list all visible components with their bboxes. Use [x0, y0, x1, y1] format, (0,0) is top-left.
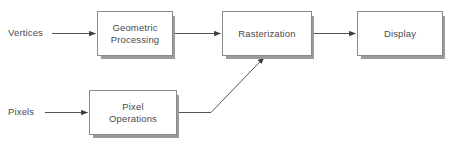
- node-display[interactable]: Display: [357, 11, 443, 56]
- node-label-pixel-operations: Pixel Operations: [109, 101, 157, 125]
- node-geometric-processing[interactable]: Geometric Processing: [97, 11, 173, 56]
- input-label-pixels: Pixels: [8, 106, 34, 118]
- input-label-vertices: Vertices: [8, 27, 43, 39]
- node-label-rasterization: Rasterization: [238, 28, 295, 40]
- node-label-geometric-processing: Geometric Processing: [111, 22, 160, 46]
- edge-pixeloperations-to-rasterization: [178, 58, 264, 113]
- node-label-display: Display: [384, 28, 416, 40]
- node-rasterization[interactable]: Rasterization: [222, 11, 312, 56]
- node-pixel-operations[interactable]: Pixel Operations: [89, 90, 177, 135]
- pipeline-diagram: Vertices Pixels Geometric Processing Ras…: [0, 0, 450, 147]
